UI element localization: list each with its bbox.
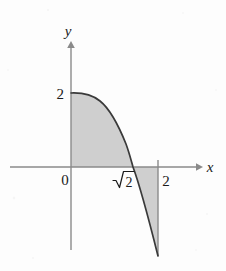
radical-radicand: 2: [126, 175, 133, 190]
x-axis-label: x: [206, 159, 214, 175]
y-tick-label-2: 2: [57, 86, 65, 102]
origin-label: 0: [61, 172, 69, 188]
x-tick-label-2: 2: [162, 173, 170, 189]
y-axis-label: y: [63, 23, 72, 39]
area-under-curve-figure: y x 2 0 2 2: [0, 0, 226, 271]
